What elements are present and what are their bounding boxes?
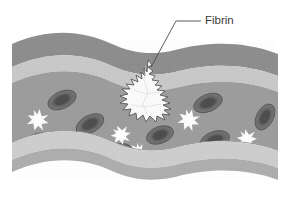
blood-vessel-diagram: Fibrin — [0, 0, 290, 200]
figure-canvas: Fibrin — [0, 0, 290, 200]
fibrin-label: Fibrin — [205, 14, 234, 26]
halftone-texture-overlay — [12, 42, 278, 180]
